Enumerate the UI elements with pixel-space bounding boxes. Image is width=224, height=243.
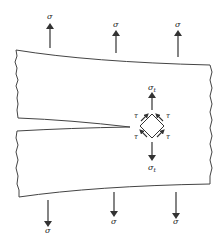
plate-top-edge — [16, 50, 210, 65]
applied-stress-arrows-top — [50, 26, 178, 57]
sigma-label: σ — [175, 20, 181, 29]
sigma-label: σ — [45, 226, 51, 235]
sigma-label: σ — [113, 20, 119, 29]
local-stress-label-top: σt — [148, 83, 156, 93]
shear-label: τ — [166, 133, 170, 141]
crack-tip-diagram: σ σ σ σ σ σ σt σt τ τ τ τ — [0, 0, 224, 243]
plate-left-edge-lower — [16, 131, 19, 197]
shear-label: τ — [166, 112, 170, 120]
stress-element — [140, 95, 164, 158]
element-diamond — [140, 114, 164, 138]
crack-upper-face — [18, 118, 130, 127]
sigma-label: σ — [111, 217, 117, 226]
plate-outline — [15, 50, 212, 197]
plate-left-edge-upper — [15, 50, 18, 118]
plate-right-edge — [210, 65, 212, 184]
sigma-label: σ — [173, 217, 179, 226]
local-stress-label-bottom: σt — [148, 163, 156, 173]
shear-label: τ — [134, 112, 138, 120]
shear-label: τ — [134, 133, 138, 141]
sigma-label: σ — [47, 12, 53, 21]
crack-lower-face — [17, 127, 130, 131]
